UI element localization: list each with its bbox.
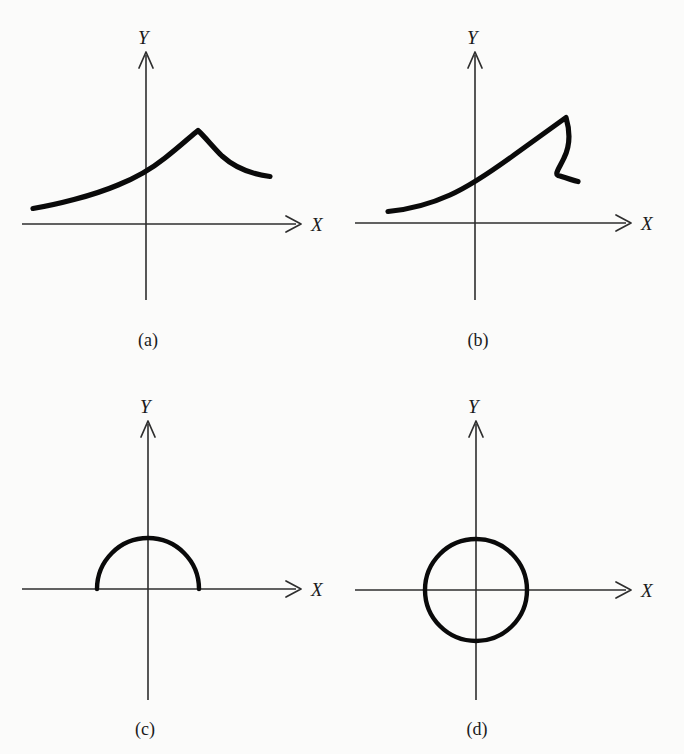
panel-a-y-axis-label: Y — [138, 27, 151, 48]
panel-d-y-axis-label: Y — [468, 396, 481, 417]
panel-a-caption: (a) — [138, 330, 158, 351]
panel-c-caption: (c) — [135, 719, 155, 740]
panel-c-y-axis-label: Y — [140, 396, 153, 417]
figure-container: X Y (a) X Y (b) — [0, 0, 684, 754]
panel-d-caption: (d) — [467, 719, 488, 740]
panel-d: X Y (d) — [355, 396, 654, 740]
panel-b-curve — [388, 118, 578, 212]
figure-svg: X Y (a) X Y (b) — [0, 0, 684, 754]
panel-b-y-axis-label: Y — [467, 27, 480, 48]
panel-b-x-axis-label: X — [640, 213, 654, 234]
panel-a-curve — [33, 131, 270, 209]
panel-d-x-axis-label: X — [640, 580, 654, 601]
panel-b-caption: (b) — [468, 330, 489, 351]
panel-a-x-axis-label: X — [310, 214, 324, 235]
panel-c: X Y (c) — [22, 396, 324, 740]
panel-c-x-axis-label: X — [310, 579, 324, 600]
panel-b: X Y (b) — [355, 27, 654, 351]
panel-a: X Y (a) — [22, 27, 324, 351]
